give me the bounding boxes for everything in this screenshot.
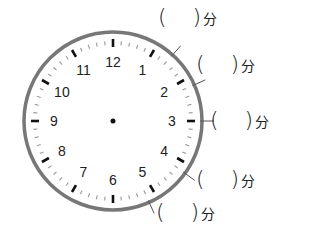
leader-line xyxy=(183,172,194,180)
hour-number: 9 xyxy=(50,113,58,129)
unit-label: 分 xyxy=(201,206,215,222)
answer-blank[interactable]: ()分 xyxy=(196,51,255,76)
hour-number: 7 xyxy=(80,164,88,180)
unit-label: 分 xyxy=(255,114,269,130)
open-paren: ( xyxy=(156,199,165,224)
hour-number: 10 xyxy=(54,84,70,100)
close-paren: ) xyxy=(245,107,254,132)
hour-number: 3 xyxy=(168,113,176,129)
leader-line xyxy=(171,46,180,56)
hour-number: 4 xyxy=(160,143,168,159)
answer-blank[interactable]: ()分 xyxy=(156,199,215,224)
open-paren: ( xyxy=(158,4,167,29)
close-paren: ) xyxy=(231,51,240,76)
close-paren: ) xyxy=(193,4,202,29)
unit-label: 分 xyxy=(241,58,255,74)
center-dot xyxy=(111,119,116,124)
open-paren: ( xyxy=(196,51,205,76)
answer-blank[interactable]: ()分 xyxy=(196,166,255,191)
answer-blank[interactable]: ()分 xyxy=(158,4,217,29)
hour-number: 5 xyxy=(139,164,147,180)
answer-blank[interactable]: ()分 xyxy=(210,107,269,132)
hour-number: 1 xyxy=(139,62,147,78)
unit-label: 分 xyxy=(203,11,217,27)
close-paren: ) xyxy=(231,166,240,191)
hour-number: 8 xyxy=(58,143,66,159)
unit-label: 分 xyxy=(241,173,255,189)
hour-number: 11 xyxy=(76,62,91,78)
hour-number: 6 xyxy=(109,172,117,188)
hour-number: 12 xyxy=(105,54,121,70)
hour-number: 2 xyxy=(160,84,168,100)
open-paren: ( xyxy=(196,166,205,191)
close-paren: ) xyxy=(191,199,200,224)
open-paren: ( xyxy=(210,107,219,132)
